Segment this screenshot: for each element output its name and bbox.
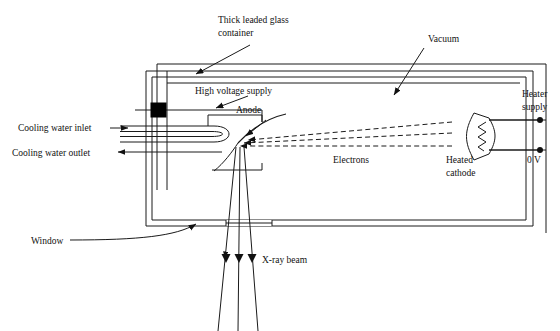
xray-beam-group [218,147,258,331]
diagram-canvas: Thick leaded glass container Vacuum High… [0,0,560,331]
label-heater-line1: Heater [522,89,548,99]
xray-beam-3 [244,147,258,331]
xray-beam-1 [218,147,236,331]
electron-beam-group [240,122,452,146]
leader-anode [246,120,266,136]
window-slot [226,220,272,226]
hv-insulator-block [151,103,166,117]
label-container-line2: container [218,28,254,38]
label-high-voltage: High voltage supply [195,86,272,96]
leader-container [196,45,250,74]
label-heater-line2: supply [522,102,548,112]
cooling-water-pipe [120,126,229,142]
xray-beam-2 [238,147,240,331]
xray-arrowheads [222,254,257,263]
label-container-line1: Thick leaded glass [218,15,289,25]
zero-volt-terminal [537,147,543,153]
cathode-leads [489,120,546,150]
electron-beam-2 [244,133,452,143]
electron-beam-1 [248,122,452,140]
label-cathode-line2: cathode [446,168,476,178]
label-cooling-outlet: Cooling water outlet [12,148,90,158]
label-cathode-line1: Heated [446,155,473,165]
label-zero-volts: 0 V [527,155,541,165]
label-window: Window [31,236,63,246]
label-anode: Anode [236,105,261,115]
label-electrons: Electrons [333,155,369,165]
xray-tube-diagram: Thick leaded glass container Vacuum High… [0,0,560,331]
label-cooling-inlet: Cooling water inlet [18,123,92,133]
heater-supply-terminal [537,117,543,123]
label-vacuum: Vacuum [428,34,460,44]
label-xray-beam: X-ray beam [262,255,308,265]
